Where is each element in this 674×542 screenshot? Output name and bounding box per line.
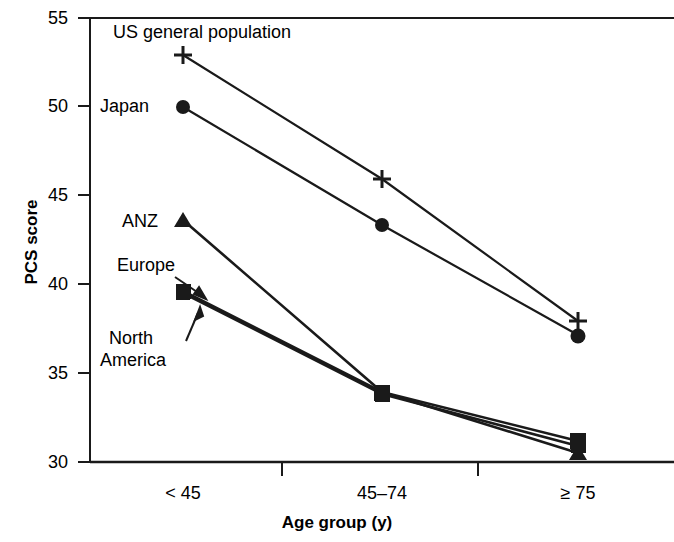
- y-tick-label-55: 55: [22, 9, 68, 27]
- y-tick-label-50: 50: [22, 97, 68, 115]
- y-axis-ticks: [78, 18, 90, 462]
- series-label-japan: Japan: [100, 96, 149, 116]
- x-axis-ticks: [282, 462, 478, 476]
- x-tick-label-45-74: 45–74: [312, 484, 452, 502]
- series-label-europe: Europe: [117, 255, 175, 275]
- y-tick-label-35: 35: [22, 364, 68, 382]
- marker-group-europe: [176, 284, 586, 449]
- series-label-north-america-line1: North: [109, 328, 153, 348]
- series-label-north-america-line2: America: [100, 350, 166, 370]
- chart-plot-area: [0, 0, 674, 542]
- x-tick-label-under-45: < 45: [113, 484, 253, 502]
- north-america-leader-arrow: [186, 307, 203, 341]
- series-line-north-america: [183, 293, 578, 446]
- x-axis-title: Age group (y): [0, 513, 674, 533]
- chart-figure: 55 50 45 40 35 30 < 45 45–74 ≥ 75 PCS sc…: [0, 0, 674, 542]
- marker-group-anz: [174, 212, 587, 460]
- marker-group-japan: [176, 100, 586, 344]
- series-line-europe: [183, 291, 578, 441]
- y-tick-label-30: 30: [22, 453, 68, 471]
- y-axis-title: PCS score: [22, 182, 42, 302]
- series-label-us-general-population: US general population: [113, 22, 291, 42]
- x-tick-label-75-plus: ≥ 75: [508, 484, 648, 502]
- series-line-anz: [183, 220, 578, 453]
- series-label-anz: ANZ: [122, 211, 158, 231]
